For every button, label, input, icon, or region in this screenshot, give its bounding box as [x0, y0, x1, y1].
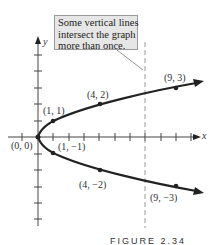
point-label-4-neg2: (4, −2): [79, 179, 106, 190]
y-axis-arrow-icon: [35, 36, 41, 44]
y-axis-label: y: [43, 36, 47, 47]
x-axis-arrow-icon: [193, 134, 201, 140]
x-axis-label: x: [202, 130, 206, 141]
point-label-1-neg1: (1, −1): [58, 141, 85, 152]
point-label-9-neg3: (9, −3): [150, 192, 177, 203]
callout-box: Some vertical lines intersect the graph …: [54, 15, 138, 50]
figure: Some vertical lines intersect the graph …: [0, 0, 212, 245]
lower-arrow-icon: [193, 187, 204, 195]
point-label-origin: (0, 0): [11, 140, 33, 151]
point-label-9-3: (9, 3): [164, 72, 186, 83]
figure-caption: FIGURE 2.34: [110, 236, 186, 245]
callout-line-3: more than once.: [58, 40, 134, 52]
point-label-1-1: (1, 1): [43, 105, 65, 116]
callout-line-1: Some vertical lines: [58, 17, 134, 29]
upper-arrow-icon: [193, 79, 204, 87]
point-label-4-2: (4, 2): [87, 89, 109, 100]
callout-line-2: intersect the graph: [58, 29, 134, 41]
callout-pointer: [117, 50, 143, 70]
